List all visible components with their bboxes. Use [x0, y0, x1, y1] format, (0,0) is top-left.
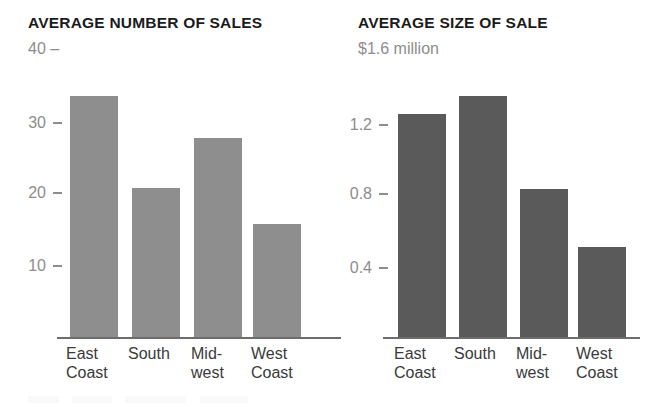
y-tick-dash-icon	[53, 265, 62, 267]
figure-canvas: AVERAGE NUMBER OF SALES 40 – 30 20 10 Ea…	[0, 0, 653, 407]
bar-east-coast[interactable]	[70, 96, 118, 337]
bar-midwest[interactable]	[520, 189, 568, 337]
y-tick-dash-icon	[53, 122, 62, 124]
x-axis-baseline	[383, 337, 640, 339]
y-tick-dash-icon	[53, 192, 62, 194]
x-label-midwest: Mid- west	[191, 344, 224, 382]
bar-midwest[interactable]	[194, 138, 242, 337]
y-tick-1-2: 1.2	[330, 116, 388, 134]
y-tick-dash-icon	[379, 124, 388, 126]
bar-west-coast[interactable]	[253, 224, 301, 337]
y-tick-30: 30	[0, 114, 62, 132]
x-label-midwest: Mid- west	[516, 344, 549, 382]
y-tick-10: 10	[0, 257, 62, 275]
bar-south[interactable]	[459, 96, 507, 337]
x-label-east-coast: East Coast	[394, 344, 436, 382]
y-tick-20: 20	[0, 184, 62, 202]
x-axis-baseline	[57, 337, 341, 339]
y-tick-0-8: 0.8	[330, 185, 388, 203]
x-label-east-coast: East Coast	[66, 344, 108, 382]
x-label-south: South	[454, 344, 496, 363]
chart-panel-average-number-of-sales: AVERAGE NUMBER OF SALES 40 – 30 20 10 Ea…	[0, 0, 345, 407]
bar-east-coast[interactable]	[398, 114, 446, 337]
y-tick-0-4: 0.4	[330, 259, 388, 277]
y-tick-dash-icon	[379, 267, 388, 269]
bar-west-coast[interactable]	[578, 247, 626, 337]
chart-panel-average-size-of-sale: AVERAGE SIZE OF SALE $1.6 million 1.2 0.…	[330, 0, 653, 407]
y-tick-dash-icon	[379, 193, 388, 195]
footer-cropped-caption	[28, 396, 248, 403]
bar-south[interactable]	[132, 188, 180, 337]
plot-area-average-number-of-sales: 30 20 10 East Coast South Mid- west West…	[0, 0, 345, 407]
x-label-west-coast: West Coast	[251, 344, 293, 382]
x-label-south: South	[128, 344, 170, 363]
x-label-west-coast: West Coast	[576, 344, 618, 382]
plot-area-average-size-of-sale: 1.2 0.8 0.4 East Coast South Mid- west W…	[330, 0, 653, 407]
